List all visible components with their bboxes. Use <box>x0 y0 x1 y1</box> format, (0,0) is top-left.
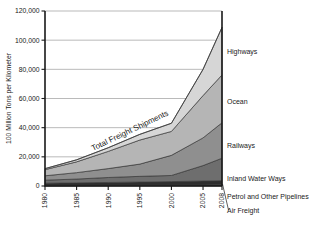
chart-container: 020,00040,00060,00080,000100,000120,0001… <box>0 0 317 229</box>
y-axis-title: 100 Million Tons per Kilometer <box>5 52 13 144</box>
x-tick-label: 1985 <box>73 193 80 208</box>
x-tick-label: 1980 <box>41 193 48 208</box>
stacked-area-chart: 020,00040,00060,00080,000100,000120,0001… <box>0 0 317 229</box>
series-label-petrol-and-other-pipelines: Petrol and Other Pipelines <box>227 193 309 201</box>
series-label-railways: Railways <box>227 142 256 150</box>
y-tick-label: 60,000 <box>19 95 40 102</box>
series-label-ocean: Ocean <box>227 98 248 105</box>
series-labels: HighwaysOceanRailwaysInland Water WaysPe… <box>227 48 309 215</box>
x-axis: 1980198519901995200020052008 <box>41 186 225 208</box>
y-tick-label: 100,000 <box>15 37 40 44</box>
y-tick-label: 0 <box>36 182 40 189</box>
series-label-inland-water-ways: Inland Water Ways <box>227 175 286 183</box>
series-label-highways: Highways <box>227 48 258 56</box>
y-tick-label: 20,000 <box>19 153 40 160</box>
x-tick-label: 1995 <box>136 193 143 208</box>
y-axis: 020,00040,00060,00080,000100,000120,000 <box>15 7 45 189</box>
y-tick-label: 40,000 <box>19 124 40 131</box>
x-tick-label: 1990 <box>105 193 112 208</box>
y-tick-label: 80,000 <box>19 66 40 73</box>
y-tick-label: 120,000 <box>15 7 40 14</box>
series-label-air-freight: Air Freight <box>227 207 259 215</box>
x-tick-label: 2000 <box>168 193 175 208</box>
x-tick-label: 2005 <box>199 193 206 208</box>
x-tick-label: 2008 <box>218 193 225 208</box>
